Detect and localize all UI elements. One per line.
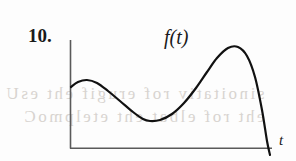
function-label: f(t) [164, 26, 188, 49]
problem-number: 10. [28, 25, 52, 47]
function-curve [71, 46, 270, 155]
figure-container: sinoitativ rof erugif eht esU eht rof el… [0, 0, 296, 161]
x-axis-label: t [279, 132, 283, 149]
